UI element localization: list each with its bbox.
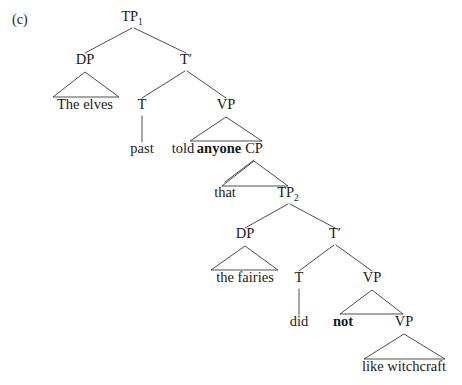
figure-caption-group: (c) (12, 12, 28, 28)
tree-node-dp2: DP (236, 225, 255, 241)
node-label-text: VP (363, 269, 382, 285)
node-label-text: T′ (329, 225, 341, 241)
node-label-text: DP (236, 225, 255, 241)
tree-node-t2: T (295, 269, 304, 285)
node-label-text: VP (395, 313, 414, 329)
tree-node-vp1: VP (217, 96, 236, 112)
tree-terminal-the-fairies: the fairies (216, 269, 274, 285)
tree-node-tbar2: T′ (329, 225, 341, 241)
tree-node-dp1: DP (76, 51, 95, 67)
node-label-text: DP (76, 51, 95, 67)
node-label-text: T′ (180, 51, 192, 67)
syntax-tree-canvas: TP1DPT′TVPCPTP2DPT′TVPVP The elvespastto… (0, 0, 462, 385)
figure-caption: (c) (12, 12, 28, 28)
tree-node-vp3: VP (395, 313, 414, 329)
tree-terminal-that: that (214, 184, 236, 200)
node-label-text: T (295, 269, 304, 285)
node-label-text: T (138, 96, 147, 112)
tree-terminal-the-elves: The elves (57, 96, 113, 112)
tree-node-tbar1: T′ (180, 51, 192, 67)
tree-node-t1: T (138, 96, 147, 112)
tree-terminal-told: told (172, 140, 195, 156)
tree-node-cp: CP (245, 140, 263, 156)
tree-terminal-not: not (333, 313, 353, 329)
node-subscript: 1 (138, 17, 143, 27)
node-label-text: CP (245, 140, 263, 156)
node-label-text: TP (121, 8, 138, 24)
tree-terminal-did: did (290, 313, 309, 329)
tree-terminal-like-witchcraft: like witchcraft (362, 358, 446, 374)
tree-node-vp2: VP (363, 269, 382, 285)
tree-terminal-anyone: anyone (197, 140, 242, 156)
syntax-tree-figure: TP1DPT′TVPCPTP2DPT′TVPVP The elvespastto… (0, 0, 462, 385)
tree-terminal-past: past (130, 140, 153, 156)
node-subscript: 2 (294, 193, 299, 203)
node-label-text: TP (277, 184, 294, 200)
node-label-text: VP (217, 96, 236, 112)
